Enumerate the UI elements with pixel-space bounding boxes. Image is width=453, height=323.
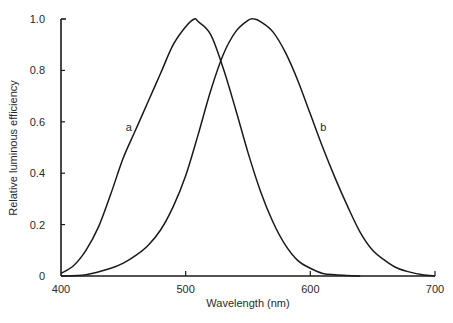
curve-b-line	[61, 19, 435, 276]
x-tick-label: 600	[301, 283, 319, 295]
y-tick-label: 0	[39, 270, 45, 282]
x-tick-label: 500	[176, 283, 194, 295]
x-ticks: 400500600700	[52, 271, 444, 295]
y-tick-label: 0.8	[30, 64, 45, 76]
x-tick-label: 700	[426, 283, 444, 295]
y-tick-label: 1.0	[30, 13, 45, 25]
y-tick-label: 0.4	[30, 167, 45, 179]
y-ticks: 00.20.40.60.81.0	[30, 13, 65, 282]
curve-a-label: a	[126, 121, 133, 133]
x-tick-label: 400	[52, 283, 70, 295]
curve-a-line	[61, 19, 360, 276]
curve-b-label: b	[320, 121, 326, 133]
luminous-efficiency-chart: 00.20.40.60.81.0 400500600700 a b Wavele…	[0, 0, 453, 323]
y-axis-title: Relative luminous efficiency	[7, 80, 19, 216]
y-tick-label: 0.6	[30, 116, 45, 128]
plot-area: 00.20.40.60.81.0 400500600700 a b	[30, 13, 444, 295]
x-axis-title: Wavelength (nm)	[206, 297, 289, 309]
y-tick-label: 0.2	[30, 219, 45, 231]
